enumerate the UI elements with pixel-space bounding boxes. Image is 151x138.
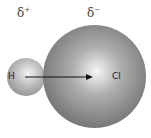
dipole-arrow [0, 0, 151, 138]
